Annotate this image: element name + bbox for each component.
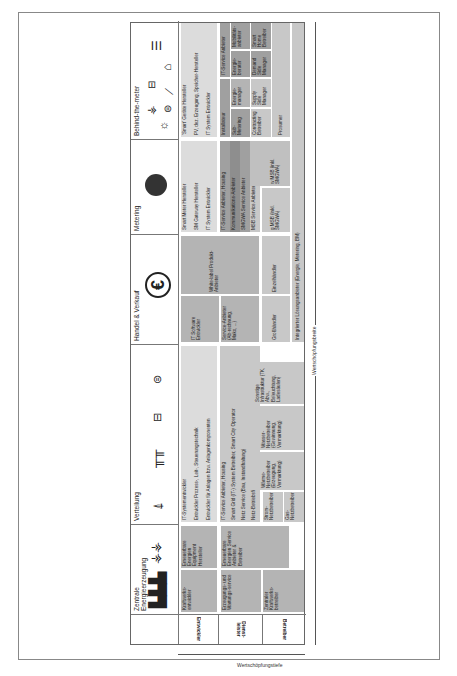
electric-car-icon: ⊜ — [151, 375, 164, 384]
waerme-netzbetreiber-cell: Wärme-Netzbetreiber (Erzeugung, Vermarkt… — [247, 452, 304, 490]
col-header-verteilung: Verteilung ⍋ ╥╥ ⊟ ⊜ — [131, 344, 179, 524]
ee-equipment-cell: Erneuerbare Energien Equipment Herstelle… — [181, 526, 217, 568]
behind-entwickler-2: PV, dez. Erzeugung, Speicher-Hersteller — [193, 23, 205, 137]
metering-entwickler-1: Smart Meter Hersteller — [181, 141, 193, 232]
role-entwickler: Entwickler — [179, 614, 219, 644]
supply-side-manager-cell: Supply Side Manager — [251, 79, 271, 107]
it-service-anbieter-cell: IT-Service Anbieter — [220, 23, 230, 77]
metering-entwickler-3: IT System Entwickler — [205, 141, 217, 232]
role-dienstleister: Dienst-leister — [219, 614, 263, 644]
mobilitaetsanbieter-cell: Mobilitäts-anbieter — [231, 23, 250, 49]
power-plant-cooling-towers-icon: ▙▙▙ — [151, 572, 164, 608]
col-header-handel: Handel & Verkauf € — [131, 234, 179, 344]
strom-netzbetreiber-cell: Strom-Netzbetreiber — [263, 492, 283, 522]
prosumer-cell: Prosumer — [272, 23, 290, 137]
white-label-cell: White-label Produkt-Anbieter — [181, 236, 259, 294]
verteilung-dl-1: IT-Service Anbieter, Housing — [220, 346, 230, 522]
verteilung-dl-2: Smart Grid (IT-) System Betreiber, Smart… — [230, 346, 240, 522]
metering-dl-1: IT-Service Anbieter, Housing — [220, 141, 230, 232]
installateur-cell: Installateur — [220, 79, 230, 137]
tiefe-arrow — [178, 654, 305, 655]
integrierter-loesungsanbieter-cell: Integrierter Lösungsanbieter (Energie, M… — [292, 23, 304, 342]
house-icon: ⌂ — [161, 64, 174, 71]
value-chain-table: Zentrale Energieerzeugung ▙▙▙ ⚶⚶ Verteil… — [130, 22, 305, 645]
einzelhaendler-cell: Einzelhändler — [262, 236, 290, 294]
electric-car-icon: ⊜ — [161, 105, 174, 113]
utility-poles-icon: ╥╥ — [149, 450, 162, 468]
col-header-behind-the-meter: Behind-the-meter ☼ ⚶ ⊜ ⟋ ⊟ ⌂ ☰ — [131, 21, 179, 139]
sun-icon: ☼ — [157, 121, 170, 131]
corner-cell — [131, 614, 179, 644]
erzeugung-wartung-cell: Erzeugungs- und Wartungs-service — [221, 570, 261, 612]
grosshaendler-cell: Großhändler — [262, 296, 290, 342]
energieberater-cell: Energie-berater — [231, 51, 250, 77]
metering-entwickler-2: SM Gateway Hersteller — [193, 141, 205, 232]
verteilung-entwickler-1: IT-Systementwickler — [181, 346, 193, 522]
demand-side-manager-cell: Demand Side Manager — [251, 51, 271, 77]
contracting-betreiber-cell: Contracting Betreiber — [251, 109, 271, 137]
transmission-tower-icon: ⍋ — [151, 502, 164, 510]
heat-pump-icon: ⊟ — [151, 413, 164, 422]
wasser-netzbetreiber-cell: Wasser-Netzbetreiber (Gewinnung, Vermark… — [251, 406, 304, 450]
service-anbieter-cell: Service-Anbieter (Ab-rechnung, Mako, ...… — [221, 296, 259, 342]
verteilung-entwickler-2: Entwickler Prozess-, Leit-, Steuerungste… — [193, 346, 205, 522]
col-header-zentrale: Zentrale Energieerzeugung ▙▙▙ ⚶⚶ — [131, 524, 179, 614]
gas-netzbetreiber-cell: Gas-Netzbetreiber — [284, 492, 304, 522]
metering-dl-3: SMGWA Service Anbieter — [240, 141, 250, 232]
ee-service-cell: Erneuerbare Energien Service Anbieter & … — [221, 526, 289, 568]
wind-turbines-icon: ⚶⚶ — [149, 542, 162, 564]
behind-entwickler-1: 'Smart' Geräte Hersteller — [181, 23, 193, 137]
heat-pump-icon: ⊟ — [145, 81, 158, 89]
wind-turbine-icon: ⚶ — [145, 106, 158, 115]
euro-icon: € — [145, 272, 171, 298]
sonstige-infrastruktur-cell: Sonstige Infrastruktur (TK, Abw., Beleuc… — [243, 362, 304, 404]
energiemanager-cell: Energie-manager — [231, 79, 250, 107]
smart-meter-icon — [145, 174, 167, 196]
ev-charger-icon: ⟋ — [163, 88, 176, 95]
gmsb-cell: g MSB (inkl. SMGWA) — [262, 188, 290, 232]
col-header-metering: Metering — [131, 139, 179, 234]
rotated-figure: Wertschöpfungstiefe Wertschöpfungsbreite… — [0, 0, 457, 676]
breite-label: Wertschöpfungsbreite — [311, 325, 317, 376]
tiefe-label: Wertschöpfungstiefe — [236, 662, 284, 668]
behind-entwickler-3: IT System Entwickler — [205, 23, 217, 137]
role-betreiber: Betreiber — [263, 614, 306, 644]
smart-home-betreiber-cell: Smart Home Betreiber — [251, 23, 271, 49]
zentraler-betreiber-cell: Zentraler Kraftwerks-betreiber — [263, 570, 304, 612]
wmsb-cell: w MSB (inkl. SMGWA) — [250, 141, 290, 186]
it-software-entwickler-cell: IT Software Entwickler — [181, 296, 219, 342]
sub-metering-cell: Sub-Metering — [231, 109, 250, 137]
metering-dl-2: Kommunikations-Anbieter — [230, 141, 240, 232]
ladder-storage-icon: ☰ — [151, 40, 164, 51]
kraftwerksentwickler-cell: Kraftwerks-entwickler — [181, 570, 217, 612]
verteilung-entwickler-3: Entwickler für Anlagen bzw. Anlagenkompo… — [205, 346, 217, 522]
